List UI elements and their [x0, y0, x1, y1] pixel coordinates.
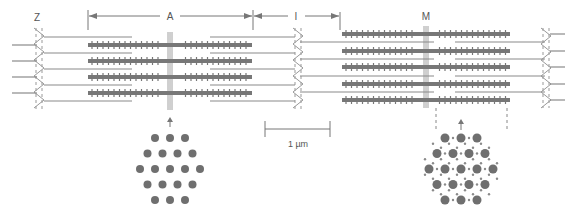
thin-filament-dot — [456, 174, 458, 176]
thin-filament-dot — [432, 189, 434, 191]
z-line-label: Z — [34, 12, 40, 23]
filament-dot — [465, 149, 474, 158]
thin-filament-dot — [448, 162, 450, 164]
thin-filament-dot — [468, 199, 470, 201]
thin-filament-dot — [468, 137, 470, 139]
cross-section-cut-markers — [436, 108, 507, 130]
filament-dot — [457, 196, 466, 205]
thin-filament-dot — [432, 143, 434, 145]
filament-dot — [433, 149, 442, 158]
filament-dot — [457, 134, 466, 143]
filament-dot — [473, 165, 482, 174]
filament-dot — [473, 134, 482, 143]
thin-filament-dot — [488, 147, 490, 149]
thin-filament-dot — [444, 152, 446, 154]
thin-filament-dot — [472, 193, 474, 195]
thin-filament-dot — [480, 162, 482, 164]
filament-dot — [481, 180, 490, 189]
thin-filament-dot — [440, 193, 442, 195]
thin-filament-dot — [496, 162, 498, 164]
filament-layer — [12, 26, 565, 110]
filament-dot — [433, 180, 442, 189]
thin-filament-dot — [476, 183, 478, 185]
thin-filament-dot — [488, 158, 490, 160]
filament-dot — [449, 149, 458, 158]
filament-dot — [144, 181, 152, 189]
filament-dot — [166, 196, 174, 204]
scale-bar-label: 1 µm — [288, 139, 308, 149]
thin-filament-dot — [472, 147, 474, 149]
a-band-label: A — [167, 11, 174, 22]
filament-dot — [181, 165, 189, 173]
filament-dot — [151, 165, 159, 173]
thin-filament-dot — [480, 143, 482, 145]
cross-section-arrow-left — [167, 117, 173, 127]
filament-dot — [441, 196, 450, 205]
filament-dot — [136, 165, 144, 173]
thin-filament-dot — [472, 158, 474, 160]
filament-dot — [449, 180, 458, 189]
filament-dot — [189, 181, 197, 189]
thin-filament-dot — [464, 162, 466, 164]
thin-filament-dot — [432, 178, 434, 180]
filament-dot — [166, 165, 174, 173]
thin-filament-dot — [464, 178, 466, 180]
filament-dot — [174, 150, 182, 158]
filament-dot — [473, 196, 482, 205]
filament-dot — [166, 134, 174, 142]
thin-filament-dot — [456, 193, 458, 195]
filament-dot — [465, 180, 474, 189]
sarcomere-diagram: Z A I M 1 µm — [0, 0, 572, 207]
thin-filament-dot — [488, 174, 490, 176]
filament-dot — [159, 181, 167, 189]
thin-filament-dot — [448, 143, 450, 145]
filament-dot — [174, 181, 182, 189]
filament-dot — [481, 149, 490, 158]
filament-dot — [457, 165, 466, 174]
thin-filament-dot — [468, 168, 470, 170]
filament-dot — [196, 165, 204, 173]
thin-filament-dot — [452, 137, 454, 139]
filament-dot — [181, 134, 189, 142]
filament-dot — [441, 134, 450, 143]
thin-filament-dot — [424, 174, 426, 176]
thin-filament-dot — [456, 158, 458, 160]
cross-section-a-band-thick-only — [136, 134, 204, 204]
thin-filament-dot — [480, 178, 482, 180]
thin-filament-dot — [460, 152, 462, 154]
thin-filament-dot — [440, 147, 442, 149]
filament-dot — [151, 134, 159, 142]
thin-filament-dot — [464, 189, 466, 191]
thin-filament-dot — [448, 189, 450, 191]
thin-filament-dot — [452, 168, 454, 170]
thin-filament-dot — [444, 183, 446, 185]
thin-filament-dot — [488, 193, 490, 195]
thin-filament-dot — [448, 178, 450, 180]
z-disk — [541, 28, 551, 108]
filament-dot — [144, 150, 152, 158]
thin-filament-dot — [480, 189, 482, 191]
scale-bar — [265, 121, 330, 137]
thin-filament-dot — [452, 199, 454, 201]
thin-filament-dot — [464, 143, 466, 145]
thin-filament-dot — [484, 168, 486, 170]
thin-filament-dot — [440, 158, 442, 160]
thin-filament-dot — [440, 174, 442, 176]
cross-section-arrow-right — [458, 119, 464, 130]
thin-filament-dot — [476, 152, 478, 154]
thin-filament-dot — [496, 178, 498, 180]
cross-section-overlap-region — [424, 134, 498, 205]
thin-filament-dot — [436, 168, 438, 170]
filament-dot — [425, 165, 434, 174]
filament-dot — [159, 150, 167, 158]
filament-dot — [489, 165, 498, 174]
filament-dot — [181, 196, 189, 204]
filament-dot — [441, 165, 450, 174]
m-line-label: M — [422, 11, 430, 22]
filament-dot — [189, 150, 197, 158]
thin-filament-dot — [472, 174, 474, 176]
thin-filament-dot — [460, 183, 462, 185]
i-band-label: I — [295, 11, 298, 22]
thin-filament-dot — [424, 158, 426, 160]
filament-dot — [151, 196, 159, 204]
